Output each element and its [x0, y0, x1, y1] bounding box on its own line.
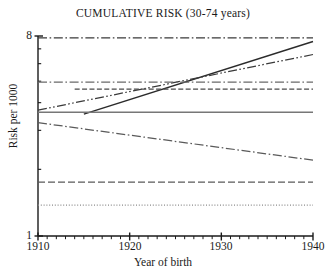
- series-7-declining-dash-dot: [38, 123, 313, 161]
- chart-canvas: [0, 0, 326, 278]
- y-axis-ticks: [35, 36, 44, 236]
- chart-figure: CUMULATIVE RISK (30-74 years) Risk per 1…: [0, 0, 326, 278]
- axes: [38, 36, 313, 236]
- data-series-layer: [38, 38, 313, 205]
